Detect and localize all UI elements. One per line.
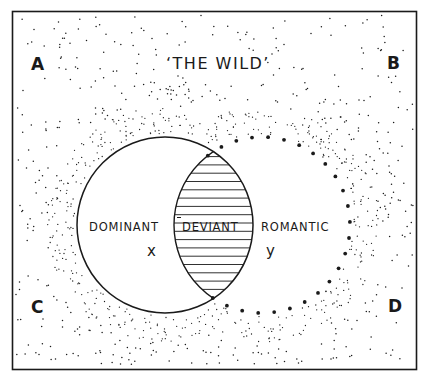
title-the-wild: ‘THE WILD’ <box>166 54 270 73</box>
label-deviant: DEVIANT <box>182 220 239 234</box>
corner-label-b: B <box>387 53 400 73</box>
variable-y: y <box>266 242 275 260</box>
corner-label-d: D <box>388 296 402 316</box>
label-dominant: DOMINANT <box>89 220 159 234</box>
corner-label-a: A <box>31 54 45 74</box>
label-romantic: ROMANTIC <box>261 220 329 234</box>
corner-label-c: C <box>31 297 43 317</box>
wild-venn-diagram: A B C D ‘THE WILD’ DOMINANT DEVIANT ROMA… <box>0 0 426 379</box>
variable-x: x <box>147 242 156 260</box>
